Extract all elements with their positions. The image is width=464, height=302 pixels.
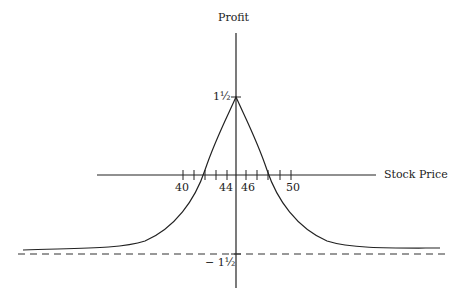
y-tick-label-bottom: − 1½ bbox=[205, 257, 235, 269]
x-tick-label-40: 40 bbox=[175, 182, 189, 194]
chart: Profit Stock Price 40 44 46 50 1½ − 1½ bbox=[0, 0, 464, 302]
x-tick-label-46: 46 bbox=[241, 182, 255, 194]
x-tick-label-44: 44 bbox=[219, 182, 233, 194]
profit-curve bbox=[23, 97, 440, 250]
y-tick-label-top: 1½ bbox=[213, 91, 231, 103]
x-axis-label: Stock Price bbox=[384, 169, 448, 181]
y-axis-label: Profit bbox=[218, 12, 249, 24]
x-tick-label-50: 50 bbox=[286, 182, 300, 194]
